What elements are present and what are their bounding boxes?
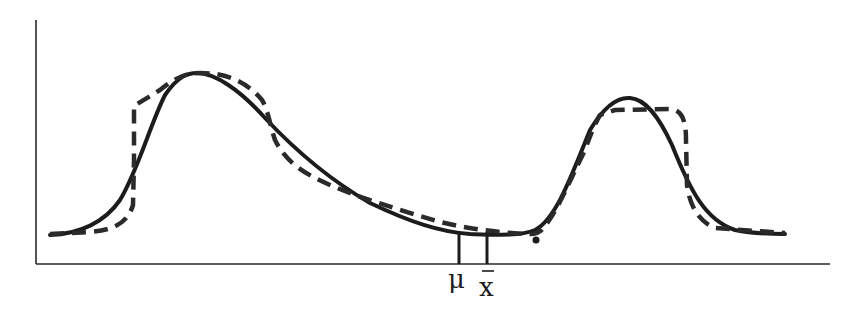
smooth-density-curve (50, 73, 785, 235)
bimodal-distribution-chart: μ x (0, 0, 858, 309)
tail-point-marker (533, 237, 540, 244)
mu-label: μ (448, 264, 465, 294)
xbar-label: x (479, 272, 494, 302)
